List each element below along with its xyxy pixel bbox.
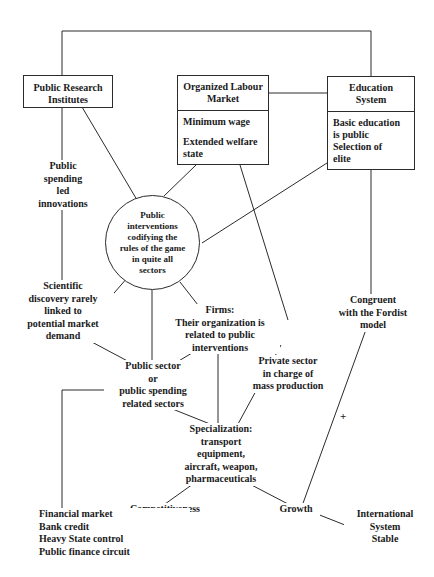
labour-item-welfare-state: Extended welfarestate bbox=[183, 136, 263, 160]
label-public-spending-led-innovations: Publicspendingledinnovations bbox=[22, 160, 104, 210]
label-private-sector-mass-production: Private sectorin charge ofmass productio… bbox=[240, 355, 336, 393]
box-education-system[interactable]: EducationSystem Basic educationis public… bbox=[327, 76, 415, 170]
label-firms-organization: Firms:Their organization isrelated to pu… bbox=[160, 304, 280, 354]
box-organized-labour-market-header: Organized LabourMarket bbox=[178, 76, 268, 110]
label-public-sector-or-spending: Public sectororpublic spendingrelated se… bbox=[104, 360, 202, 410]
education-circle-link bbox=[202, 163, 327, 243]
box-education-system-body: Basic educationis publicSelection ofelit… bbox=[328, 111, 414, 169]
top-bus-connector bbox=[62, 31, 371, 76]
label-specialization: Specialization:transportequipment,aircra… bbox=[160, 423, 282, 486]
labour-private-link bbox=[240, 165, 288, 320]
box-organized-labour-market[interactable]: Organized LabourMarket Minimum wage Exte… bbox=[177, 75, 269, 165]
label-congruent-fordist: Congruentwith the Fordistmodel bbox=[327, 294, 419, 332]
label-scientific-discovery: Scientificdiscovery rarelylinked topoten… bbox=[12, 280, 114, 343]
growth-congruent-link bbox=[302, 324, 368, 506]
circle-firms-link bbox=[180, 282, 198, 305]
education-item-basic: Basic educationis publicSelection ofelit… bbox=[333, 117, 409, 165]
diagram-canvas: Public ResearchInstitutes Organized Labo… bbox=[0, 0, 434, 577]
label-growth: Growth bbox=[272, 503, 320, 516]
labour-item-minimum-wage: Minimum wage bbox=[183, 116, 263, 128]
node-public-interventions-label: Publicinterventionscodifying therules of… bbox=[120, 210, 186, 276]
operator-plus-sign: + bbox=[340, 411, 346, 422]
box-education-system-header: EducationSystem bbox=[328, 77, 414, 111]
node-public-interventions[interactable]: Publicinterventionscodifying therules of… bbox=[105, 195, 200, 290]
box-public-research-institutes[interactable]: Public ResearchInstitutes bbox=[23, 75, 113, 108]
label-international-system-stable: InternationalSystemStable bbox=[344, 508, 426, 546]
labour-circle-link bbox=[164, 165, 196, 196]
box-public-research-institutes-header: Public ResearchInstitutes bbox=[24, 76, 112, 112]
box-organized-labour-market-body: Minimum wage Extended welfarestate bbox=[178, 110, 268, 164]
label-financial-block: Financial marketBank creditHeavy State c… bbox=[38, 508, 190, 558]
